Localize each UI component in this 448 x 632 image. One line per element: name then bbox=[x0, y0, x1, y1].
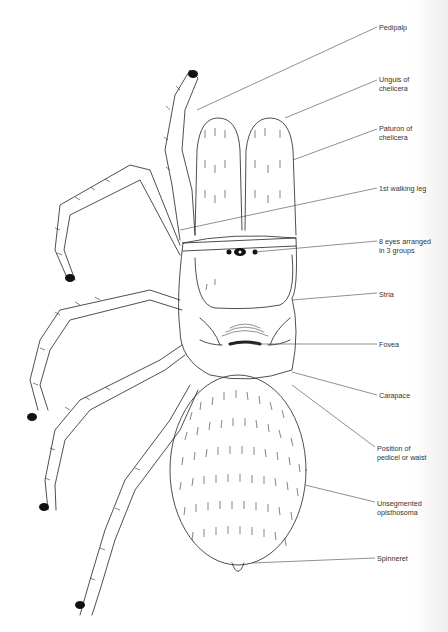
spinneret-shape bbox=[232, 563, 244, 572]
label-eyes: 8 eyes arrangedin 3 groups bbox=[379, 237, 431, 255]
diagram-page: Pedipalp Unguis ofchelicera Paturon ofch… bbox=[0, 0, 448, 632]
chelicera-right bbox=[245, 118, 296, 235]
label-1st-walking-leg: 1st walking leg bbox=[379, 184, 426, 193]
label-carapace: Carapace bbox=[379, 391, 410, 400]
label-spinneret: Spinneret bbox=[377, 554, 408, 563]
label-unguis-of-chelicera: Unguis ofchelicera bbox=[379, 75, 409, 93]
label-opisthosoma: Unsegmentedopisthosoma bbox=[377, 499, 422, 517]
stria-line bbox=[195, 255, 293, 309]
chelicera-left bbox=[195, 118, 242, 235]
opisthosoma-outline bbox=[170, 375, 306, 565]
leg-2 bbox=[30, 290, 182, 410]
tarantula-illustration bbox=[0, 0, 448, 632]
leg-1 bbox=[55, 165, 180, 280]
pedipalp-left bbox=[165, 70, 198, 240]
leader-lines bbox=[180, 27, 377, 563]
label-stria: Stria bbox=[379, 290, 394, 299]
label-pedipalp: Pedipalp bbox=[379, 23, 407, 32]
label-fovea: Fovea bbox=[379, 340, 399, 349]
carapace-outline bbox=[179, 236, 297, 379]
label-paturon-of-chelicera: Paturon ofchelicera bbox=[379, 124, 412, 142]
label-pedicel: Position ofpedicel or waist bbox=[377, 444, 427, 462]
